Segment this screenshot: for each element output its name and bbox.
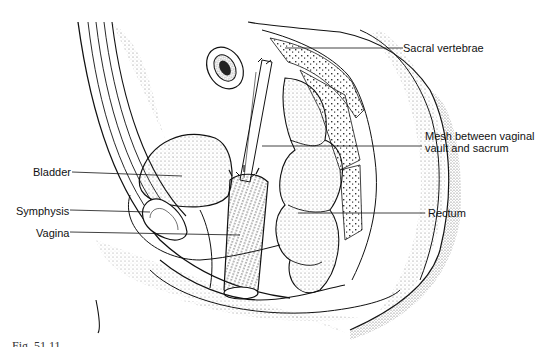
label-rectum: Rectum <box>428 207 466 219</box>
label-mesh-line1: Mesh between vaginal <box>425 130 534 142</box>
label-vagina: Vagina <box>36 227 69 239</box>
anatomical-diagram: Sacral vertebrae Mesh between vaginal va… <box>0 0 552 347</box>
bladder <box>139 135 232 207</box>
figure-caption: Fig. 51.11 <box>12 339 61 347</box>
label-bladder: Bladder <box>33 166 71 178</box>
label-sacral-vertebrae: Sacral vertebrae <box>403 42 484 54</box>
label-mesh-line2: vault and sacrum <box>425 142 509 154</box>
label-symphysis: Symphysis <box>16 205 69 217</box>
sigmoid-colon <box>199 40 250 95</box>
